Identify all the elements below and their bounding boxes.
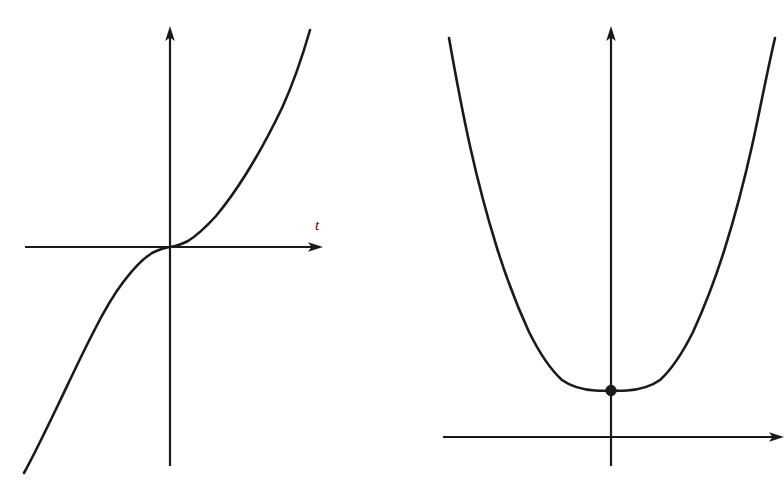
parabola-graph-panel: (0, 1) bbox=[392, 0, 784, 485]
x-axis-label-t: t bbox=[315, 218, 319, 233]
vertex-point-marker bbox=[606, 385, 616, 395]
cubic-graph-panel: t bbox=[0, 0, 392, 485]
parabola-graph-svg bbox=[392, 0, 784, 485]
cubic-graph-svg bbox=[0, 0, 392, 485]
cubic-curve-path bbox=[24, 30, 310, 473]
figure-canvas: t (0, 1) bbox=[0, 0, 784, 485]
